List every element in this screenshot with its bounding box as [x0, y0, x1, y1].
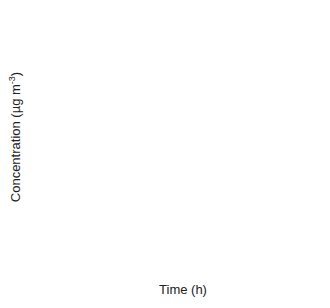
x-axis-label: Time (h)	[159, 282, 207, 297]
y-axis-label: Concentration (µg m-3)	[7, 72, 23, 202]
concentration-chart: Time (h) Concentration (µg m-3)	[0, 0, 330, 308]
